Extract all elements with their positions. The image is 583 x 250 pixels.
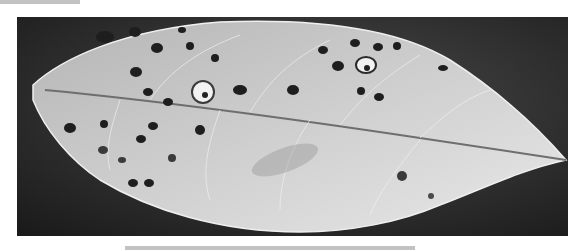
leaf-photo	[17, 17, 568, 236]
leaf-illustration	[17, 17, 568, 236]
cropped-caption-bottom	[125, 246, 415, 250]
cropped-caption-top	[0, 0, 80, 4]
